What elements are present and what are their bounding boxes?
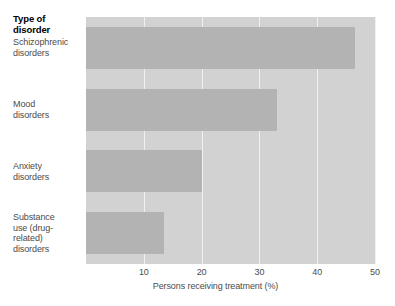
x-tick-label-10: 10 [139,267,149,277]
bar [86,150,202,192]
category-label-line: related) [13,233,87,244]
category-label-line: Substance [13,212,87,223]
x-axis: Persons receiving treatment (%) 10203040… [0,264,395,306]
bar [86,27,355,69]
category-label-substance-use: Substanceuse (drug-related)disorders [13,212,87,254]
category-label-line: Schizophrenic [13,37,87,48]
x-tick-label-30: 30 [254,267,264,277]
plot-area [86,17,375,264]
category-label-line: disorders [13,110,87,121]
x-tick-label-40: 40 [312,267,322,277]
category-label-line: disorders [13,172,87,183]
y-axis-title-line-1: Type of [13,13,83,24]
category-label-line: Mood [13,99,87,110]
category-label-line: disorders [13,48,87,59]
bar-chart-figure: Type of disorder Schizophrenicdisorders … [0,0,395,306]
category-label-line: use (drug- [13,223,87,234]
y-axis-title-line-2: disorder [13,24,83,35]
category-label-mood: Mooddisorders [13,99,87,120]
x-tick-label-20: 20 [197,267,207,277]
bar [86,89,277,131]
x-tick-label-50: 50 [370,267,380,277]
gridline-50 [375,17,376,264]
category-label-anxiety: Anxietydisorders [13,161,87,182]
category-label-line: Anxiety [13,161,87,172]
category-label-schizophrenic: Schizophrenicdisorders [13,37,87,58]
y-axis-title: Type of disorder [13,13,83,35]
category-label-line: disorders [13,244,87,255]
x-axis-title: Persons receiving treatment (%) [0,281,395,291]
bar [86,212,164,254]
category-axis: Type of disorder Schizophrenicdisorders … [0,0,86,306]
